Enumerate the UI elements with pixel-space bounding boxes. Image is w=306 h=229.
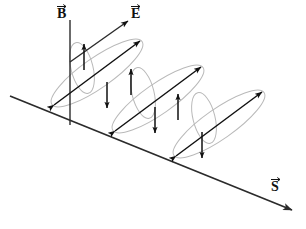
b-field-label-group: B — [57, 5, 66, 22]
em-wave-diagram-canvas: B E S — [0, 0, 306, 229]
e-field-arrow-2 — [115, 67, 201, 131]
e-field-arrow-group — [54, 41, 262, 156]
b-field-arrow-group — [84, 44, 202, 158]
e-field-label-group: E — [131, 5, 140, 22]
b-field-ellipse-3 — [187, 90, 221, 146]
e-field-label: E — [131, 6, 140, 21]
poynting-label: S — [271, 179, 279, 194]
e-field-arrow-1 — [54, 41, 140, 105]
poynting-label-group: S — [271, 178, 280, 195]
b-field-lobe-group — [65, 40, 221, 146]
poynting-axis-line — [10, 96, 292, 210]
b-field-label: B — [57, 6, 66, 21]
em-wave-figure: B E S — [0, 0, 306, 229]
e-field-arrow-3 — [176, 92, 262, 156]
